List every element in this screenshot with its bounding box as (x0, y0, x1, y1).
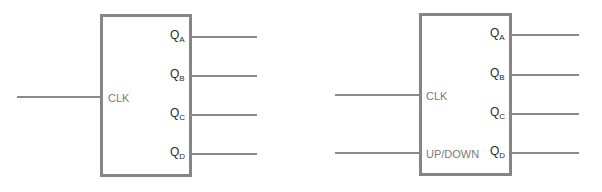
qb-output-wire (511, 74, 579, 76)
clk-input-wire (17, 96, 101, 98)
qa-output-wire (511, 34, 579, 36)
qa-output-label: QA (490, 27, 505, 44)
qc-output-wire (191, 114, 257, 116)
qd-output-wire (511, 152, 579, 154)
clk-input-wire (335, 94, 420, 96)
qa-output-wire (191, 36, 257, 38)
qd-output-label: QD (490, 145, 505, 162)
up-down-input-wire (335, 152, 420, 154)
qb-output-label: QB (490, 67, 505, 84)
qb-output-label: QB (170, 68, 185, 85)
up-down-input-label: UP/DOWN (426, 148, 479, 160)
qd-output-label: QD (170, 146, 185, 163)
qc-output-label: QC (170, 107, 185, 124)
clk-input-label: CLK (108, 92, 129, 104)
qd-output-wire (191, 153, 257, 155)
clk-input-label: CLK (426, 90, 447, 102)
qc-output-label: QC (490, 106, 505, 123)
qb-output-wire (191, 75, 257, 77)
qc-output-wire (511, 113, 579, 115)
qa-output-label: QA (170, 29, 185, 46)
